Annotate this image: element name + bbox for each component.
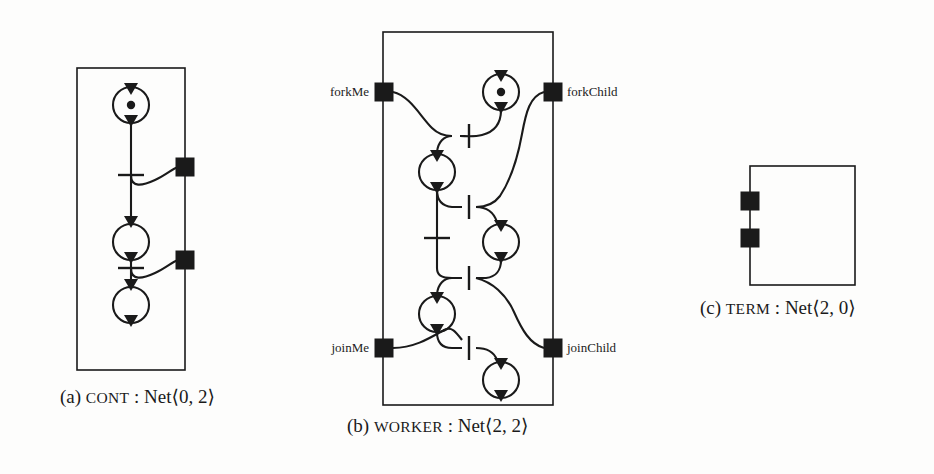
panel-c-diagram bbox=[741, 166, 855, 285]
caption-a-tag: (a) bbox=[60, 386, 81, 407]
token-a-1 bbox=[127, 101, 135, 109]
figure-page: forkMe forkChild joinMe joinChild (a) CO… bbox=[0, 0, 934, 474]
arc-b-5 bbox=[476, 260, 501, 278]
caption-a-name: CONT bbox=[86, 389, 129, 406]
caption-c-sig: ⟨2, 0⟩ bbox=[812, 297, 855, 318]
port-c-2[interactable] bbox=[741, 229, 759, 247]
caption-a-sig: ⟨0, 2⟩ bbox=[171, 386, 214, 407]
arc-b-forkme bbox=[393, 92, 452, 136]
port-b-forkchild[interactable] bbox=[544, 83, 562, 101]
panel-b-diagram bbox=[375, 32, 562, 405]
caption-a-type: Net bbox=[144, 386, 171, 407]
arc-b-1 bbox=[460, 110, 501, 136]
port-b-joinme[interactable] bbox=[375, 339, 393, 357]
place-a-1 bbox=[113, 83, 149, 127]
arc-b-7 bbox=[437, 278, 452, 294]
port-label-joinme: joinMe bbox=[264, 341, 369, 354]
caption-c-tag: (c) bbox=[700, 297, 721, 318]
arc-b-2 bbox=[437, 136, 452, 152]
caption-c-sep: : bbox=[770, 297, 785, 318]
panel-c-boundary bbox=[750, 166, 855, 285]
arc-b-joinme-visible bbox=[393, 329, 462, 348]
arc-b-3 bbox=[437, 190, 462, 207]
port-label-joinchild: joinChild bbox=[567, 341, 616, 354]
caption-b-type: Net bbox=[458, 415, 485, 436]
token-b-1 bbox=[497, 88, 505, 96]
caption-b: (b) WORKER : Net⟨2, 2⟩ bbox=[347, 416, 528, 435]
place-a-2 bbox=[113, 224, 149, 264]
port-b-forkme[interactable] bbox=[375, 83, 393, 101]
port-a-1[interactable] bbox=[176, 158, 194, 176]
arc-b-4 bbox=[476, 207, 497, 222]
caption-b-sig: ⟨2, 2⟩ bbox=[485, 415, 528, 436]
arc-b-9 bbox=[476, 348, 497, 360]
port-label-forkme: forkMe bbox=[264, 85, 369, 98]
caption-a-sep: : bbox=[129, 386, 144, 407]
arc-b-joinchild bbox=[476, 278, 544, 348]
arc-b-forkchild bbox=[476, 92, 544, 207]
place-b-1 bbox=[483, 70, 519, 114]
arc-b-6 bbox=[437, 268, 462, 278]
port-label-forkchild: forkChild bbox=[567, 85, 618, 98]
caption-c-type: Net bbox=[785, 297, 812, 318]
caption-c-name: TERM bbox=[726, 300, 770, 317]
port-b-joinchild[interactable] bbox=[544, 339, 562, 357]
port-a-2[interactable] bbox=[176, 251, 194, 269]
caption-b-tag: (b) bbox=[347, 415, 369, 436]
port-c-1[interactable] bbox=[741, 192, 759, 210]
caption-c: (c) TERM : Net⟨2, 0⟩ bbox=[700, 298, 856, 317]
caption-b-name: WORKER bbox=[374, 418, 443, 435]
caption-b-sep: : bbox=[443, 415, 458, 436]
place-a-3 bbox=[113, 287, 149, 327]
caption-a: (a) CONT : Net⟨0, 2⟩ bbox=[60, 387, 215, 406]
panel-a-diagram bbox=[77, 68, 194, 370]
